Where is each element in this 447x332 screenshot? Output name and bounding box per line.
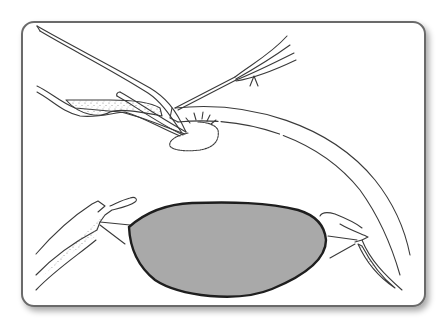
illustration-stage	[0, 0, 447, 332]
eye-surgery-illustration	[0, 0, 447, 332]
